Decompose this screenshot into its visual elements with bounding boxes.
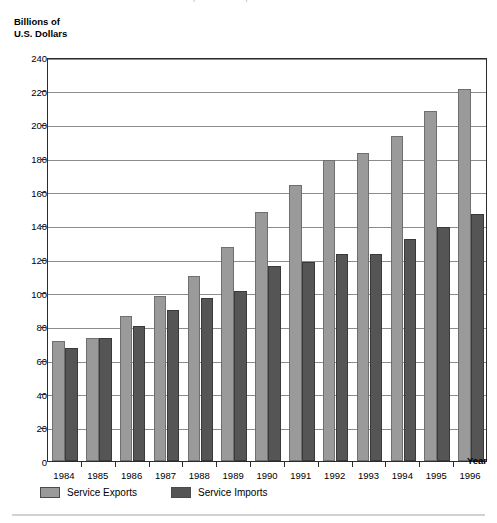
bar-imports-1986 [133, 326, 146, 461]
legend-label: Service Imports [198, 487, 267, 498]
bar-exports-1991 [289, 185, 302, 461]
x-tick-label: 1986 [121, 470, 142, 481]
bar-exports-1987 [154, 296, 167, 461]
y-tick-mark [41, 293, 46, 294]
x-tick-label: 1996 [459, 470, 480, 481]
bar-exports-1996 [458, 89, 471, 461]
legend-swatch-icon [171, 487, 191, 498]
y-tick-mark [41, 260, 46, 261]
bar-exports-1986 [120, 316, 133, 461]
x-tick-label: 1993 [358, 470, 379, 481]
bars-layer [48, 59, 486, 461]
y-axis: 020406080100120140160180200220240 [0, 58, 47, 462]
y-axis-caption: Billions of U.S. Dollars [14, 16, 67, 40]
bar-exports-1989 [221, 247, 234, 461]
y-axis-caption-line1: Billions of [14, 16, 67, 28]
bar-exports-1985 [86, 338, 99, 461]
bar-imports-1988 [201, 298, 214, 461]
bar-exports-1992 [323, 160, 336, 461]
legend-item-exports: Service Exports [40, 487, 137, 498]
legend-swatch-icon [40, 487, 60, 498]
bar-imports-1987 [167, 310, 180, 462]
x-tick-label: 1990 [256, 470, 277, 481]
x-tick-label: 1984 [53, 470, 74, 481]
bar-imports-1985 [99, 338, 112, 461]
legend-item-imports: Service Imports [171, 487, 267, 498]
x-tick-mark [453, 462, 454, 467]
bar-exports-1988 [188, 276, 201, 461]
bar-imports-1991 [302, 262, 315, 461]
x-tick-mark [250, 462, 251, 467]
y-tick-mark [41, 327, 46, 328]
chart-legend: Service ExportsService Imports [40, 487, 268, 498]
x-tick-mark [419, 462, 420, 467]
bar-exports-1984 [52, 341, 65, 461]
x-tick-label: 1995 [426, 470, 447, 481]
x-tick-mark [216, 462, 217, 467]
x-tick-label: 1989 [223, 470, 244, 481]
bar-imports-1992 [336, 254, 349, 461]
x-tick-mark [182, 462, 183, 467]
bar-imports-1989 [234, 291, 247, 461]
bar-exports-1994 [391, 136, 404, 461]
x-tick-mark [149, 462, 150, 467]
cutoff-title-text: Service Exports and Imports [148, 0, 266, 2]
x-tick-label: 1994 [392, 470, 413, 481]
x-tick-mark [81, 462, 82, 467]
y-tick-mark [41, 394, 46, 395]
y-tick-label: 240 [17, 53, 47, 64]
bar-imports-1984 [65, 348, 78, 461]
x-tick-mark [385, 462, 386, 467]
y-tick-label: 0 [17, 457, 47, 468]
bar-imports-1995 [437, 227, 450, 461]
bar-exports-1995 [424, 111, 437, 461]
plot-area [47, 58, 487, 462]
x-tick-mark [352, 462, 353, 467]
x-tick-label: 1991 [290, 470, 311, 481]
y-tick-mark [41, 226, 46, 227]
x-tick-mark [318, 462, 319, 467]
x-tick-mark [284, 462, 285, 467]
x-axis: 1984198519861987198819891990199119921993… [47, 462, 487, 486]
bar-exports-1993 [357, 153, 370, 461]
x-tick-mark [115, 462, 116, 467]
y-tick-mark [41, 125, 46, 126]
bar-imports-1993 [370, 254, 383, 461]
y-tick-mark [41, 361, 46, 362]
chart-figure: Service Exports and Imports Billions of … [0, 0, 497, 523]
y-axis-caption-line2: U.S. Dollars [14, 28, 67, 40]
x-tick-label: 1988 [189, 470, 210, 481]
x-tick-label: 1985 [87, 470, 108, 481]
x-tick-label: 1987 [155, 470, 176, 481]
y-tick-mark [41, 91, 46, 92]
bar-imports-1996 [471, 214, 484, 461]
legend-label: Service Exports [67, 487, 137, 498]
y-tick-mark [41, 428, 46, 429]
x-axis-caption: Year [467, 455, 487, 466]
cutoff-title-strip: Service Exports and Imports [0, 0, 497, 8]
bar-imports-1994 [404, 239, 417, 461]
x-tick-label: 1992 [324, 470, 345, 481]
bar-exports-1990 [255, 212, 268, 461]
bar-imports-1990 [268, 266, 281, 461]
bottom-divider [12, 514, 485, 516]
y-tick-mark [41, 192, 46, 193]
y-tick-mark [41, 159, 46, 160]
